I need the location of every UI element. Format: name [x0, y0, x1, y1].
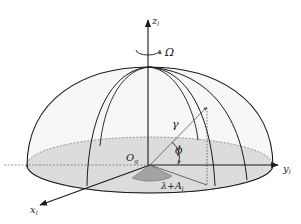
omega-label: Ω [164, 46, 174, 59]
phi-label: ϕ [175, 144, 183, 157]
hemisphere-coordinate-diagram: zl Ω γ Og ϕ λ+Al yl xl [0, 0, 301, 224]
y-axis-label: yl [282, 163, 291, 175]
gamma-label: γ [172, 118, 179, 131]
lambda-angle-label: λ+Al [160, 180, 184, 192]
z-axis-label: zl [151, 15, 159, 27]
x-axis-label: xl [30, 204, 38, 216]
